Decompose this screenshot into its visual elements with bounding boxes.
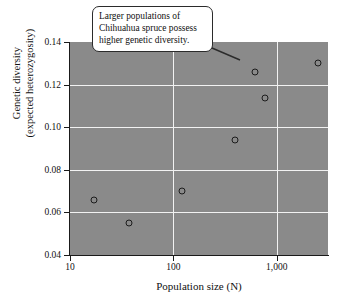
y-axis-tick-label: 0.10: [44, 123, 61, 133]
y-axis-title: Genetic diversity (expected heterozygosi…: [10, 0, 36, 183]
data-point: [178, 188, 185, 195]
y-axis-tick-label: 0.08: [44, 166, 61, 176]
x-axis-tick: [70, 255, 71, 261]
y-axis-tick-label: 0.04: [44, 251, 61, 261]
x-axis-tick: [277, 255, 278, 261]
y-axis-tick-label: 0.14: [44, 38, 61, 48]
y-axis-title-line-2: (expected heterozygosity): [23, 0, 36, 183]
plot-area: [70, 42, 328, 255]
data-point: [90, 196, 97, 203]
y-axis-tick-label: 0.06: [44, 208, 61, 218]
scatter-plot-figure: 0.14 0.12 0.10 0.08 0.06 0.04 10 100 1,0…: [0, 0, 339, 305]
callout-line-2: Chihuahua spruce possess: [99, 23, 207, 35]
y-axis-tick: [64, 212, 70, 213]
gridline-horizontal: [70, 170, 328, 171]
gridline-horizontal: [70, 212, 328, 213]
callout-line-3: higher genetic diversity.: [99, 35, 207, 47]
y-axis-tick-label: 0.12: [44, 81, 61, 91]
gridline-horizontal: [70, 85, 328, 86]
callout-annotation: Larger populations of Chihuahua spruce p…: [92, 6, 213, 52]
y-axis-tick: [64, 85, 70, 86]
gridline-vertical: [173, 42, 174, 255]
y-axis-title-line-1: Genetic diversity: [10, 0, 23, 183]
data-point: [252, 68, 259, 75]
y-axis-line: [69, 42, 70, 256]
y-axis-tick: [64, 42, 70, 43]
y-axis-tick: [64, 170, 70, 171]
gridline-horizontal: [70, 127, 328, 128]
data-point: [261, 95, 268, 102]
y-axis-tick: [64, 127, 70, 128]
x-axis-tick-label: 100: [166, 263, 180, 273]
data-point: [125, 220, 132, 227]
x-axis-title: Population size (N): [70, 280, 328, 292]
data-point: [314, 60, 321, 67]
gridline-vertical: [277, 42, 278, 255]
x-axis-tick-label: 10: [65, 263, 75, 273]
x-axis-tick-label: 1,000: [266, 263, 287, 273]
callout-line-1: Larger populations of: [99, 11, 207, 23]
data-point: [231, 137, 238, 144]
x-axis-line: [69, 255, 329, 256]
x-axis-tick: [173, 255, 174, 261]
